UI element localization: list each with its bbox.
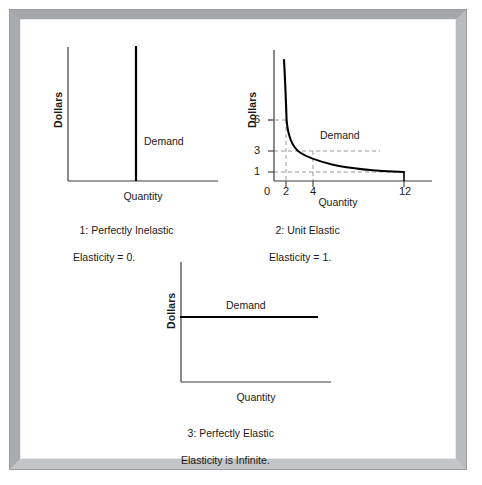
caption-line-1: 2: Unit Elastic	[276, 224, 340, 236]
caption-line-1: 1: Perfectly Inelastic	[80, 224, 174, 236]
x-tick-label-0: 0	[260, 185, 274, 197]
panel-unit-elastic: Dollars Quantity Demand 6 3 1 0 2 4 12 2…	[228, 0, 482, 240]
demand-series-label: Demand	[144, 135, 184, 147]
y-axis-label: Dollars	[52, 92, 64, 128]
elasticity-figure: Dollars Quantity Demand 1: Perfectly Ine…	[0, 0, 482, 485]
y-tick-label-6: 6	[250, 113, 264, 125]
panel-perfectly-elastic: Dollars Quantity Demand 3: Perfectly Ela…	[113, 245, 373, 455]
x-tick-label-4: 4	[306, 185, 320, 197]
y-tick-label-1: 1	[250, 165, 264, 177]
x-axis-label: Quantity	[288, 196, 388, 208]
caption-line-1: 3: Perfectly Elastic	[188, 427, 274, 439]
demand-curve-hyperbola	[284, 60, 404, 172]
x-tick-label-12: 12	[396, 185, 414, 197]
caption-line-2: Elasticity is Infinite.	[170, 454, 274, 468]
panel-3-caption: 3: Perfectly Elastic Elasticity is Infin…	[170, 413, 274, 485]
panel-perfectly-inelastic: Dollars Quantity Demand 1: Perfectly Ine…	[0, 0, 240, 240]
x-axis-label: Quantity	[93, 190, 193, 202]
y-tick-label-3: 3	[250, 144, 264, 156]
y-axis-label: Dollars	[165, 293, 177, 329]
panel-1-plot	[0, 0, 240, 240]
x-tick-label-2: 2	[279, 185, 293, 197]
demand-series-label: Demand	[320, 129, 360, 141]
demand-series-label: Demand	[226, 299, 266, 311]
x-axis-label: Quantity	[206, 391, 306, 403]
